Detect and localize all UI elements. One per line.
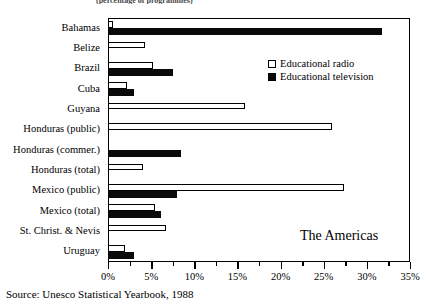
category-label: Honduras (commer.): [0, 145, 100, 155]
bar-educational-television: [108, 211, 161, 217]
bar-educational-radio: [108, 225, 166, 231]
legend: Educational radioEducational television: [268, 58, 374, 83]
x-axis-tick: [194, 262, 195, 269]
bar-educational-radio: [108, 164, 143, 170]
x-axis-minor-tick: [259, 262, 260, 266]
legend-label: Educational radio: [280, 58, 354, 71]
bar-educational-radio: [108, 82, 127, 88]
category-label: Honduras (total): [0, 165, 100, 175]
x-axis-tick-label: 30%: [357, 271, 376, 282]
legend-swatch-television-icon: [268, 73, 276, 81]
legend-item: Educational television: [268, 71, 374, 84]
x-axis-tick: [237, 262, 238, 269]
bar-educational-radio: [108, 21, 113, 27]
clipped-caption-fragment: (percentage of programmes): [96, 0, 266, 4]
bar-educational-radio: [108, 103, 245, 109]
x-axis-tick-label: 25%: [314, 271, 333, 282]
x-axis-tick-label: 15%: [228, 271, 247, 282]
bar-educational-radio: [108, 204, 155, 210]
category-label: Mexico (total): [0, 206, 100, 216]
category-label: St. Christ. & Nevis: [0, 226, 100, 236]
category-label: Uruguay: [0, 246, 100, 256]
category-label: Guyana: [0, 104, 100, 114]
legend-item: Educational radio: [268, 58, 374, 71]
legend-swatch-radio-icon: [268, 60, 276, 68]
x-axis-tick: [108, 262, 109, 269]
x-axis-tick-label: 20%: [271, 271, 290, 282]
bar-educational-radio: [108, 42, 145, 48]
x-axis-tick: [367, 262, 368, 269]
bar-educational-television: [108, 150, 181, 156]
source-note: Source: Unesco Statistical Yearbook, 198…: [6, 288, 194, 300]
category-label: Honduras (public): [0, 124, 100, 134]
bar-educational-television: [108, 252, 134, 258]
category-label: Brazil: [0, 63, 100, 73]
x-axis-minor-tick: [216, 262, 217, 266]
x-axis-tick-label: 10%: [185, 271, 204, 282]
bar-educational-television: [108, 191, 177, 197]
x-axis-tick: [281, 262, 282, 269]
bar-educational-radio: [108, 184, 344, 190]
bar-educational-radio: [108, 62, 153, 68]
category-label: Mexico (public): [0, 185, 100, 195]
chart-figure: (percentage of programmes) BahamasBelize…: [0, 0, 430, 306]
x-axis-tick-label: 35%: [400, 271, 419, 282]
region-annotation: The Americas: [300, 228, 378, 244]
category-label: Cuba: [0, 84, 100, 94]
bars-layer: [108, 18, 410, 262]
x-axis-tick-label: 0%: [101, 271, 115, 282]
x-axis-tick: [324, 262, 325, 269]
x-axis-minor-tick: [173, 262, 174, 266]
bar-educational-television: [108, 89, 134, 95]
category-label: Bahamas: [0, 23, 100, 33]
x-axis-tick-label: 5%: [144, 271, 158, 282]
bar-educational-television: [108, 28, 382, 34]
x-axis-minor-tick: [345, 262, 346, 266]
category-label: Belize: [0, 43, 100, 53]
x-axis-tick: [410, 262, 411, 269]
x-axis-minor-tick: [388, 262, 389, 266]
x-axis-tick: [151, 262, 152, 269]
bar-educational-television: [108, 69, 173, 75]
x-axis-minor-tick: [302, 262, 303, 266]
category-axis-labels: BahamasBelizeBrazilCubaGuyanaHonduras (p…: [0, 18, 104, 262]
x-axis-minor-tick: [130, 262, 131, 266]
bar-educational-radio: [108, 123, 332, 129]
bar-educational-radio: [108, 245, 125, 251]
legend-label: Educational television: [280, 71, 374, 84]
